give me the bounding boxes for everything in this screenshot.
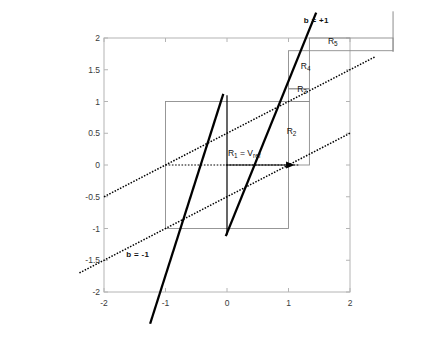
annotation-b--1: b = -1 [126,251,149,259]
y-tick-label: -1.5 [85,256,100,265]
series-b-1 [79,133,350,273]
vref-arrow [166,162,300,169]
annotation-r5: R5 [328,38,338,48]
y-tick-label: 0.5 [88,129,100,138]
annotation-r3: R3 [297,85,307,95]
x-tick-label: 1 [286,299,291,308]
annotation-b-+1: b = +1 [304,17,329,25]
chart-canvas: -2-1012 21.510.50-0.5-1-1.5-2 b = +1b = … [0,0,437,344]
map-branches [150,13,316,324]
y-tick-label: 1 [95,97,100,106]
annotation-r4: R4 [301,62,311,72]
y-tick-label: -1 [92,224,100,233]
y-tick-label: 0 [95,161,100,170]
series-map-branch-left [150,94,223,324]
region-boxes [166,38,394,229]
y-tick-label: 2 [95,34,100,43]
plot-svg [0,0,437,344]
y-tick-label: -0.5 [85,193,100,202]
annotation-r2: R2 [287,127,297,137]
x-tick-label: 2 [348,299,353,308]
annotation-r1: R1 = Vref [228,149,261,159]
R5-region-box [309,38,393,51]
x-tick-label: -2 [100,299,108,308]
x-tick-label: -1 [162,299,170,308]
y-tick-label: 1.5 [88,66,100,75]
y-tick-label: -2 [92,288,100,297]
series-map-branch-right [226,13,316,237]
x-tick-label: 0 [225,299,230,308]
series-b-1 [104,57,375,197]
